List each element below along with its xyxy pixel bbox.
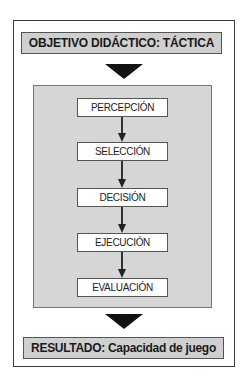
arrow-down-icon — [118, 179, 126, 188]
step-perception: PERCEPCIÓN — [77, 98, 168, 117]
step-evaluation: EVALUACIÓN — [77, 278, 168, 297]
result-box: RESULTADO: Capacidad de juego — [23, 337, 224, 359]
step-selection: SELECCIÓN — [77, 142, 168, 161]
down-triangle-icon — [105, 64, 143, 79]
connector-line — [121, 252, 123, 269]
down-triangle-icon — [105, 314, 143, 329]
connector-line — [121, 207, 123, 224]
arrow-down-icon — [118, 224, 126, 233]
objective-header: OBJETIVO DIDÁCTICO: TÁCTICA — [21, 32, 222, 54]
arrow-down-icon — [118, 133, 126, 142]
step-decision: DECISIÓN — [77, 188, 168, 207]
connector-line — [121, 161, 123, 179]
step-execution: EJECUCIÓN — [77, 233, 168, 252]
arrow-down-icon — [118, 269, 126, 278]
connector-line — [121, 117, 123, 134]
